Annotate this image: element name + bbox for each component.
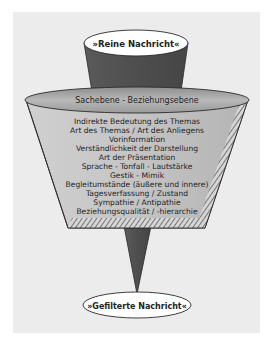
- output-message-label: »Gefilterte Nachricht«: [87, 302, 187, 311]
- output-message-ellipse: »Gefilterte Nachricht«: [83, 292, 191, 318]
- output-cone: [124, 226, 151, 294]
- filter-item: Vorinformation: [109, 135, 165, 144]
- filter-item: Sympathie / Antipathie: [93, 198, 181, 207]
- filter-item: Art der Präsentation: [99, 153, 176, 162]
- filter-item: Verständlichkeit der Darstellung: [76, 144, 198, 153]
- filter-rim-ellipse: Sachebene - Beziehungsebene: [25, 87, 249, 113]
- diagram-canvas: »Reine Nachricht« Sachebene - Beziehungs…: [0, 0, 273, 349]
- filter-item: Tagesverfassung / Zustand: [85, 189, 188, 198]
- funnel-diagram: »Reine Nachricht« Sachebene - Beziehungs…: [0, 0, 273, 349]
- input-message-ellipse: »Reine Nachricht«: [84, 30, 188, 56]
- filter-item: Beziehungsqualität / -hierarchie: [76, 207, 198, 216]
- hatched-bottom-edge: [68, 218, 205, 228]
- filter-item: Begleitumstände (äußere und innere): [66, 180, 209, 189]
- filter-item: Indirekte Bedeutung des Themas: [74, 117, 200, 126]
- filter-item: Sprache - Tonfall - Lautstärke: [82, 162, 193, 171]
- filter-item: Gestik - Mimik: [110, 171, 165, 180]
- filter-item: Art des Themas / Art des Anliegens: [70, 126, 204, 135]
- filter-header-label: Sachebene - Beziehungsebene: [75, 96, 199, 105]
- input-message-label: »Reine Nachricht«: [92, 39, 179, 49]
